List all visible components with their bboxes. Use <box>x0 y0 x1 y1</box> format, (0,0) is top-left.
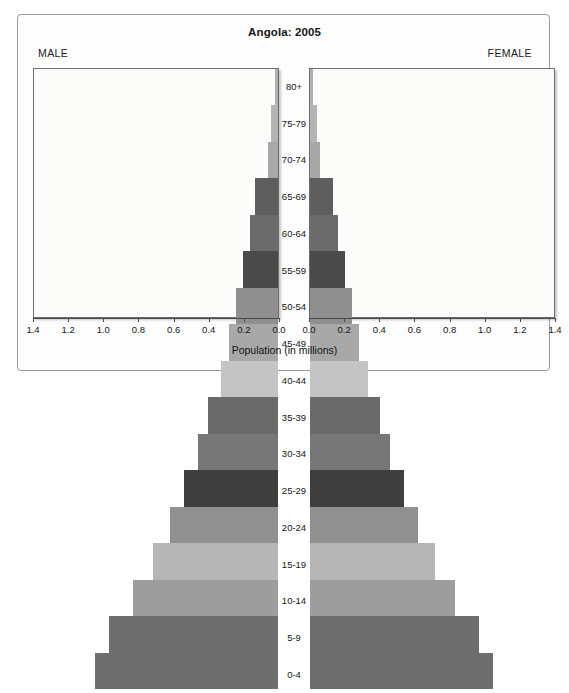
female-bar-row <box>310 69 554 105</box>
female-bar <box>310 470 404 506</box>
female-bar <box>310 178 333 214</box>
male-bar-row <box>34 361 278 397</box>
x-axis-tick-label: 0.4 <box>202 324 215 335</box>
x-axis-title: Population (in millions) <box>0 344 569 356</box>
male-bar-row <box>34 434 278 470</box>
x-axis-tick-label: 0.0 <box>272 324 285 335</box>
female-bar <box>310 543 435 579</box>
male-bar <box>221 361 279 397</box>
male-bar <box>250 215 278 251</box>
x-axis-tick-label: 1.2 <box>513 324 526 335</box>
age-group-label: 75-79 <box>282 118 306 129</box>
female-bar <box>310 142 320 178</box>
age-group-label: 15-19 <box>282 559 306 570</box>
x-axis-tick <box>555 318 556 322</box>
female-bar-row <box>310 361 554 397</box>
age-group-label: 60-64 <box>282 228 306 239</box>
x-axis-tick-label: 1.0 <box>97 324 110 335</box>
female-bar-row <box>310 178 554 214</box>
age-group-label: 10-14 <box>282 595 306 606</box>
male-plot-panel <box>33 68 279 318</box>
age-group-label: 40-44 <box>282 375 306 386</box>
male-bar-rows <box>34 69 278 317</box>
age-group-label-row: 75-79 <box>279 105 309 142</box>
x-axis-tick <box>485 318 486 322</box>
female-bar <box>310 361 368 397</box>
male-bar <box>153 543 278 579</box>
x-axis-tick <box>344 318 345 322</box>
male-bar-row <box>34 251 278 287</box>
female-bar <box>310 507 418 543</box>
female-bar-row <box>310 653 554 689</box>
x-axis-tick <box>138 318 139 322</box>
x-axis-tick <box>103 318 104 322</box>
x-axis-tick-label: 1.2 <box>62 324 75 335</box>
male-bar-row <box>34 653 278 689</box>
age-group-label-row: 65-69 <box>279 178 309 215</box>
x-axis-tick <box>379 318 380 322</box>
x-axis-tick-label: 0.2 <box>338 324 351 335</box>
age-group-label-row: 50-54 <box>279 289 309 326</box>
female-bar <box>310 251 345 287</box>
female-bar-row <box>310 470 554 506</box>
male-bar <box>184 470 278 506</box>
age-group-label: 0-4 <box>287 669 301 680</box>
male-bar-row <box>34 178 278 214</box>
age-group-label-row: 5-9 <box>279 619 309 656</box>
male-bar-row <box>34 69 278 105</box>
male-bar <box>198 434 278 470</box>
male-bar <box>268 142 278 178</box>
x-axis-tick <box>244 318 245 322</box>
age-group-label-row: 35-39 <box>279 399 309 436</box>
x-axis-tick-label: 1.0 <box>478 324 491 335</box>
x-axis-tick <box>520 318 521 322</box>
male-bar-row <box>34 543 278 579</box>
x-axis-tick-label: 1.4 <box>548 324 561 335</box>
female-bar-rows <box>310 69 554 317</box>
age-group-label-row: 30-34 <box>279 436 309 473</box>
male-bar <box>95 653 278 689</box>
age-group-label-row: 15-19 <box>279 546 309 583</box>
male-bar <box>275 69 278 105</box>
female-bar-row <box>310 507 554 543</box>
female-bar <box>310 580 455 616</box>
male-bar <box>208 397 278 433</box>
age-group-label: 65-69 <box>282 191 306 202</box>
female-bar <box>310 69 313 105</box>
x-axis-tick-label: 0.4 <box>373 324 386 335</box>
x-axis-tick <box>414 318 415 322</box>
age-group-label: 55-59 <box>282 265 306 276</box>
age-group-label-row: 40-44 <box>279 362 309 399</box>
age-group-label-row: 80+ <box>279 68 309 105</box>
female-bar <box>310 105 317 141</box>
x-axis-tick <box>309 318 310 322</box>
male-bar-row <box>34 580 278 616</box>
age-group-label: 70-74 <box>282 154 306 165</box>
x-axis-tick-label: 0.6 <box>167 324 180 335</box>
female-bar-row <box>310 215 554 251</box>
female-bar-row <box>310 397 554 433</box>
male-bar <box>255 178 278 214</box>
male-bar-row <box>34 470 278 506</box>
x-axis-tick-label: 0.2 <box>237 324 250 335</box>
female-bar-row <box>310 543 554 579</box>
chart-title: Angola: 2005 <box>0 26 569 38</box>
age-group-label-row: 55-59 <box>279 252 309 289</box>
age-group-label: 25-29 <box>282 485 306 496</box>
x-axis-tick <box>279 318 280 322</box>
female-plot-panel <box>309 68 555 318</box>
age-group-label: 30-34 <box>282 448 306 459</box>
x-axis-tick <box>174 318 175 322</box>
x-axis-tick-label: 1.4 <box>26 324 39 335</box>
x-axis-tick <box>68 318 69 322</box>
age-group-label: 50-54 <box>282 301 306 312</box>
x-axis-tick-label: 0.6 <box>408 324 421 335</box>
female-bar <box>310 215 338 251</box>
female-bar-row <box>310 142 554 178</box>
male-bar <box>109 616 278 652</box>
male-bar-row <box>34 616 278 652</box>
age-group-axis: 80+75-7970-7465-6960-6455-5950-5445-4940… <box>279 68 309 318</box>
age-group-label-row: 60-64 <box>279 215 309 252</box>
male-bar <box>133 580 278 616</box>
